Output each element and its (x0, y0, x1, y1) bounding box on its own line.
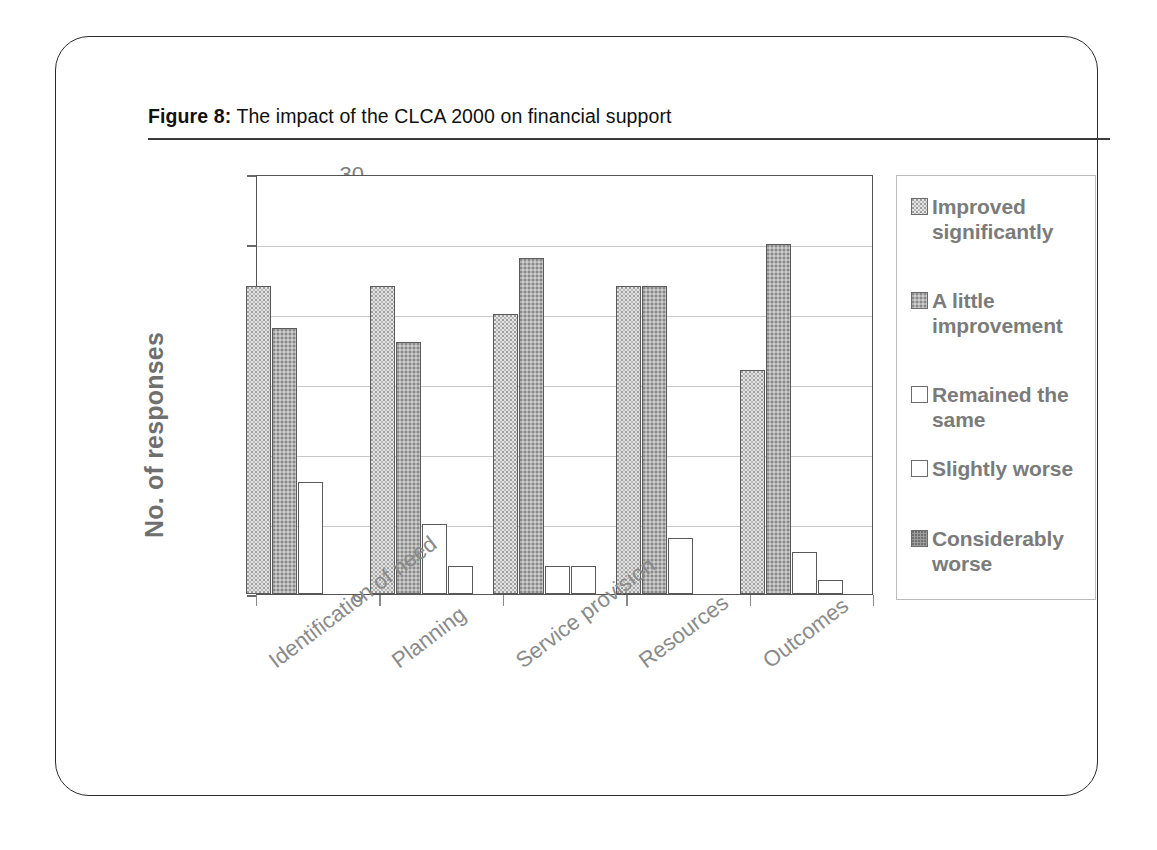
chart-legend: Improved significantlyA little improveme… (896, 175, 1096, 600)
legend-label: Improved significantly (932, 194, 1089, 244)
y-tick-mark (247, 595, 256, 597)
x-tick-mark (503, 595, 504, 606)
bar (272, 328, 297, 594)
bar (616, 286, 641, 594)
bar (642, 286, 667, 594)
y-axis-title: No. of responses (140, 285, 169, 585)
x-tick-mark (873, 595, 874, 606)
legend-swatch-icon (911, 386, 928, 403)
legend-item[interactable]: Slightly worse (911, 456, 1089, 481)
legend-label: Considerably worse (932, 526, 1089, 576)
bar (545, 566, 570, 594)
y-tick-mark (247, 245, 256, 247)
x-axis-category-label: Resources (634, 590, 734, 674)
bar (818, 580, 843, 594)
legend-item[interactable]: A little improvement (911, 288, 1089, 338)
legend-item[interactable]: Remained the same (911, 382, 1089, 432)
bar (519, 258, 544, 594)
bar (571, 566, 596, 594)
legend-swatch-icon (911, 198, 928, 215)
bar (766, 244, 791, 594)
figure-caption-text: The impact of the CLCA 2000 on financial… (231, 105, 671, 127)
legend-label: Remained the same (932, 382, 1089, 432)
bar (792, 552, 817, 594)
x-tick-mark (750, 595, 751, 606)
x-axis-category-label: Planning (387, 601, 471, 673)
bar (246, 286, 271, 594)
legend-swatch-icon (911, 292, 928, 309)
figure-caption: Figure 8: The impact of the CLCA 2000 on… (148, 105, 1108, 128)
bar (668, 538, 693, 594)
x-axis-category-label: Outcomes (758, 593, 854, 674)
legend-item[interactable]: Improved significantly (911, 194, 1089, 244)
bar (370, 286, 395, 594)
y-tick-mark (247, 175, 256, 177)
plot-inner (257, 176, 872, 594)
bar (740, 370, 765, 594)
chart-canvas: No. of responses 051015202530 Identifica… (148, 157, 1110, 777)
legend-label: A little improvement (932, 288, 1089, 338)
bar (493, 314, 518, 594)
legend-swatch-icon (911, 530, 928, 547)
legend-item[interactable]: Considerably worse (911, 526, 1089, 576)
figure-number: Figure 8: (148, 105, 231, 127)
caption-divider (148, 138, 1110, 140)
bar (298, 482, 323, 594)
bar (448, 566, 473, 594)
x-tick-mark (256, 595, 257, 606)
figure-frame: Figure 8: The impact of the CLCA 2000 on… (55, 36, 1098, 796)
legend-swatch-icon (911, 460, 928, 477)
legend-label: Slightly worse (932, 456, 1073, 481)
plot-area (256, 175, 873, 595)
